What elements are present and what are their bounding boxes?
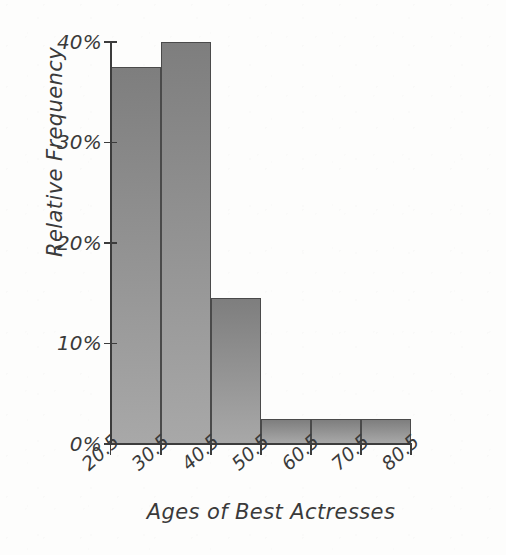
y-axis-tick bbox=[104, 343, 117, 345]
y-axis-tick bbox=[104, 142, 117, 144]
histogram-bar bbox=[111, 67, 161, 444]
y-axis-tick-label: 10% bbox=[57, 331, 102, 355]
histogram-figure: 0%10%20%30%40% 20.530.540.550.560.570.58… bbox=[0, 0, 506, 555]
histogram-bar bbox=[161, 42, 211, 444]
y-axis-title: Relative Frequency bbox=[43, 2, 67, 302]
y-axis-tick bbox=[104, 41, 117, 43]
y-axis-tick bbox=[104, 242, 117, 244]
x-axis-title: Ages of Best Actresses bbox=[0, 500, 506, 524]
plot-area: 0%10%20%30%40% 20.530.540.550.560.570.58… bbox=[0, 0, 506, 555]
histogram-bar bbox=[211, 298, 261, 444]
